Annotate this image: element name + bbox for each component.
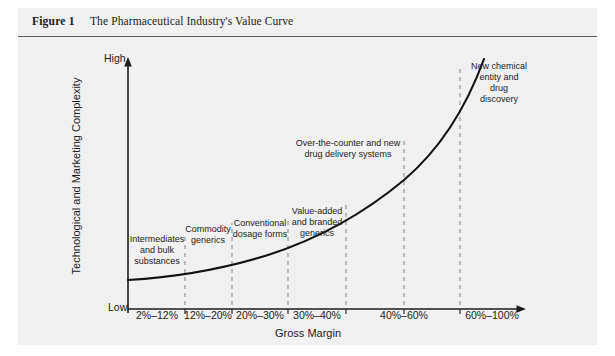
segment-label-line: drug delivery systems — [281, 149, 415, 160]
segment-label-value-added-branded-generics: Value-added and branded generics — [282, 206, 352, 239]
x-axis-title: Gross Margin — [218, 327, 398, 339]
segment-label-line: Value-added — [282, 206, 352, 217]
segment-label-line: substances — [117, 256, 197, 267]
segment-label-line: entity and — [462, 72, 536, 83]
segment-label-line: and branded — [282, 217, 352, 228]
x-tick-label: 30%–40% — [293, 309, 341, 321]
segment-label-new-chemical-entity: New chemical entity and drug discovery — [462, 61, 536, 105]
x-tick-label: 12%–20% — [184, 309, 232, 321]
segment-label-line: generics — [282, 228, 352, 239]
segment-label-line: discovery — [462, 94, 536, 105]
x-tick-label: 2%–12% — [136, 309, 178, 321]
figure-root: Figure 1 The Pharmaceutical Industry's V… — [0, 0, 615, 356]
segment-label-otc-drug-delivery: Over-the-counter and new drug delivery s… — [281, 138, 415, 160]
y-axis-high-label: High — [104, 52, 126, 64]
segment-label-line: Over-the-counter and new — [281, 138, 415, 149]
segment-label-line: and bulk — [117, 245, 197, 256]
figure-title: The Pharmaceutical Industry's Value Curv… — [90, 15, 293, 27]
x-tick-label: 40%–60% — [380, 309, 428, 321]
x-tick-label: 20%–30% — [236, 309, 284, 321]
segment-dividers — [185, 65, 460, 305]
x-tick-label: 60%–100% — [465, 309, 519, 321]
segment-label-line: New chemical — [462, 61, 536, 72]
segment-label-line: drug — [462, 83, 536, 94]
figure-number-label: Figure 1 — [32, 15, 75, 27]
y-axis-low-label: Low — [108, 301, 127, 313]
y-axis — [124, 57, 132, 313]
chart-plot-area: High Low Technological and Marketing Com… — [18, 37, 597, 345]
y-axis-title: Technological and Marketing Complexity — [70, 76, 82, 276]
figure-caption: Figure 1 The Pharmaceutical Industry's V… — [18, 8, 597, 37]
figure-panel: Figure 1 The Pharmaceutical Industry's V… — [18, 8, 597, 345]
